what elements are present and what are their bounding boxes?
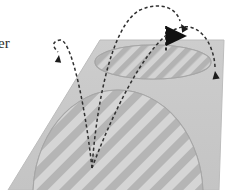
caption-fragment: er: [0, 36, 10, 51]
figure-root: er: [0, 0, 243, 190]
trajectory-diagram: [0, 0, 243, 190]
arrowhead-left-short: [55, 55, 62, 63]
